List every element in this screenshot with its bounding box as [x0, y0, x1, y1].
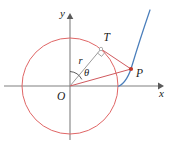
- point-P-dot: [129, 67, 133, 71]
- point-T-dot: [99, 47, 102, 50]
- label-y-axis: y: [59, 7, 65, 19]
- label-origin: O: [57, 90, 66, 102]
- label-theta: θ: [84, 67, 89, 78]
- y-axis-arrowhead: [67, 13, 74, 19]
- right-angle-marker-icon: [98, 53, 105, 57]
- label-point-T: T: [104, 31, 112, 43]
- tangent-segment: [101, 49, 131, 69]
- label-x-axis: x: [158, 87, 164, 99]
- involute-curve: [119, 10, 151, 86]
- label-point-P: P: [135, 67, 143, 79]
- label-radius: r: [79, 55, 84, 66]
- involute-diagram: y x O r θ T P: [0, 0, 170, 145]
